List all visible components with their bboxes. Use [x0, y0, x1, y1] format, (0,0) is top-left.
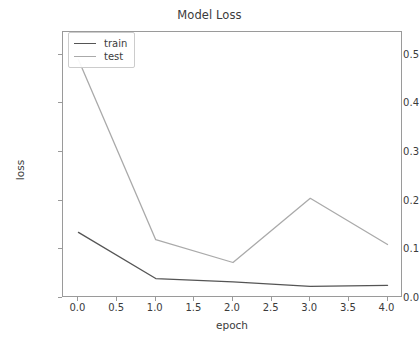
series-lines	[63, 32, 403, 298]
x-tick-label: 3.0	[301, 302, 317, 313]
y-tick-mark	[58, 297, 62, 298]
legend-item-train: train	[74, 37, 127, 50]
x-tick-label: 1.5	[185, 302, 201, 313]
x-tick-label: 2.0	[224, 302, 240, 313]
legend: train test	[68, 32, 135, 68]
plot-inner	[63, 32, 401, 296]
series-line-test	[78, 60, 387, 263]
y-axis-label: loss	[14, 140, 26, 200]
x-tick-label: 0.5	[108, 302, 124, 313]
x-tick-label: 1.0	[147, 302, 163, 313]
x-tick-label: 4.0	[379, 302, 395, 313]
legend-item-test: test	[74, 50, 127, 63]
legend-swatch-test	[74, 56, 96, 57]
x-tick-label: 2.5	[263, 302, 279, 313]
x-tick-label: 0.0	[70, 302, 86, 313]
plot-area	[62, 31, 402, 297]
legend-swatch-train	[74, 43, 96, 44]
chart-title: Model Loss	[0, 8, 419, 22]
legend-label-test: test	[104, 50, 123, 63]
legend-label-train: train	[104, 37, 127, 50]
matplotlib-figure: Model Loss 0.00.10.20.30.40.5 0.00.51.01…	[0, 0, 419, 346]
x-axis-label: epoch	[62, 319, 402, 331]
series-line-train	[78, 232, 387, 286]
x-tick-label: 3.5	[340, 302, 356, 313]
